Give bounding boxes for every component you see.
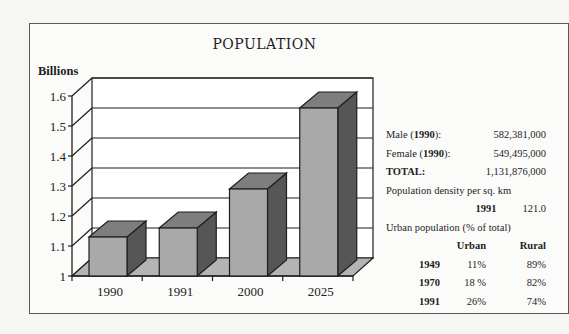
urban-row-rural: 82% bbox=[486, 274, 546, 293]
stat-density-label: Population density per sq. km bbox=[386, 182, 546, 201]
bar-2000 bbox=[230, 189, 268, 276]
grid-side-line bbox=[72, 108, 92, 126]
grid-side-line bbox=[72, 168, 92, 186]
urban-header-year bbox=[386, 237, 440, 256]
urban-table-header: Urban Rural bbox=[386, 237, 546, 256]
urban-table-row: 1970 18 % 82% bbox=[386, 274, 546, 293]
urban-row-rural: 74% bbox=[486, 293, 546, 312]
y-tick-label: 1.4 bbox=[50, 149, 67, 164]
population-stats: Male (1990): 582,381,000 Female (1990): … bbox=[386, 126, 546, 311]
x-tick-label: 1990 bbox=[97, 284, 123, 299]
y-tick-label: 1.2 bbox=[50, 209, 66, 224]
urban-row-rural: 89% bbox=[486, 256, 546, 275]
stat-urban-label: Urban population (% of total) bbox=[386, 219, 546, 238]
stat-density: 1991 121.0 bbox=[386, 200, 546, 219]
urban-row-year: 1991 bbox=[386, 293, 440, 312]
y-tick-label: 1.5 bbox=[50, 119, 66, 134]
stat-female-label: Female (1990): bbox=[386, 145, 450, 164]
grid-side-line bbox=[72, 78, 92, 96]
urban-row-urban: 26% bbox=[440, 293, 486, 312]
bar-1990 bbox=[89, 237, 127, 276]
stat-female: Female (1990): 549,495,000 bbox=[386, 145, 546, 164]
stat-total: TOTAL: 1,131,876,000 bbox=[386, 163, 546, 182]
urban-label-text: Urban population (% of total) bbox=[386, 219, 511, 238]
bar-2025 bbox=[300, 108, 338, 276]
bar-side bbox=[338, 92, 357, 276]
stat-total-value: 1,131,876,000 bbox=[486, 163, 546, 182]
urban-row-urban: 11% bbox=[440, 256, 486, 275]
grid-side-line bbox=[72, 138, 92, 156]
density-year: 1991 bbox=[475, 200, 496, 219]
urban-row-year: 1970 bbox=[386, 274, 440, 293]
grid-side-line bbox=[72, 198, 92, 216]
density-value: 121.0 bbox=[522, 200, 546, 219]
urban-row-year: 1949 bbox=[386, 256, 440, 275]
stat-male: Male (1990): 582,381,000 bbox=[386, 126, 546, 145]
y-tick-label: 1.3 bbox=[50, 179, 66, 194]
urban-table-row: 1949 11% 89% bbox=[386, 256, 546, 275]
y-tick-label: 1 bbox=[60, 269, 67, 284]
x-tick-label: 2025 bbox=[308, 284, 334, 299]
stat-female-value: 549,495,000 bbox=[494, 145, 547, 164]
x-tick-label: 2000 bbox=[238, 284, 264, 299]
bar-1991 bbox=[159, 228, 197, 276]
stat-male-label: Male (1990): bbox=[386, 126, 441, 145]
bar-side bbox=[268, 173, 287, 276]
density-label-text: Population density per sq. km bbox=[386, 182, 511, 201]
urban-row-urban: 18 % bbox=[440, 274, 486, 293]
urban-header-rural: Rural bbox=[486, 237, 546, 256]
stat-total-label: TOTAL: bbox=[386, 163, 425, 182]
y-tick-label: 1.6 bbox=[50, 89, 67, 104]
urban-table-row: 1991 26% 74% bbox=[386, 293, 546, 312]
stat-male-value: 582,381,000 bbox=[494, 126, 547, 145]
x-tick-label: 1991 bbox=[167, 284, 193, 299]
y-tick-label: 1.1 bbox=[50, 239, 66, 254]
urban-header-urban: Urban bbox=[440, 237, 486, 256]
